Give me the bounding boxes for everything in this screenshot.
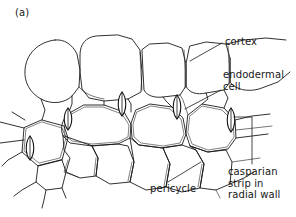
- cortex-cell: [80, 35, 142, 101]
- pericycle-cell: [92, 144, 134, 184]
- cortex-cell: [142, 43, 186, 97]
- cell-wall-stub: [14, 182, 36, 196]
- cell-wall-stub: [62, 188, 66, 198]
- cortex-cell: [25, 40, 80, 103]
- cell-wall-line: [128, 99, 131, 112]
- cell-wall-stub: [42, 190, 46, 208]
- cell-wall-stub: [236, 126, 272, 130]
- cell-wall-stub: [0, 122, 24, 128]
- pericycle-cell: [36, 160, 66, 190]
- panel-letter: (a): [15, 7, 29, 19]
- cell-wall-line: [64, 160, 78, 177]
- label-cortex: cortex: [225, 36, 257, 48]
- figure-panel: (a) cortex endodermal cell pericycle cas…: [0, 0, 296, 217]
- cell-wall-line: [41, 99, 45, 120]
- label-casparian-strip: casparian strip in radial wall: [228, 166, 280, 201]
- cell-wall-stub: [0, 140, 24, 143]
- label-endodermal-cell: endodermal cell: [223, 69, 284, 92]
- pericycle-cell: [63, 136, 98, 178]
- cell-wall-line: [79, 87, 104, 99]
- cell-wall-line: [184, 50, 185, 88]
- cell-wall-line: [198, 164, 202, 187]
- leader-line-cortex: [190, 43, 222, 61]
- cell-wall-line: [188, 106, 234, 150]
- pericycle-cell: [190, 146, 232, 190]
- leader-line-casparian: [234, 117, 252, 164]
- cell-wall-stub: [2, 152, 22, 166]
- cell-wall-stub: [12, 112, 25, 120]
- cell-wall-line: [163, 97, 172, 107]
- cell-wall-line: [128, 162, 132, 181]
- cell-wall-line: [94, 158, 96, 176]
- cell-wall-stub: [216, 190, 220, 198]
- cell-wall-line: [224, 90, 228, 108]
- label-pericycle: pericycle: [150, 183, 196, 195]
- leader-line-pericycle: [168, 162, 201, 182]
- cell-wall-stub: [232, 158, 260, 162]
